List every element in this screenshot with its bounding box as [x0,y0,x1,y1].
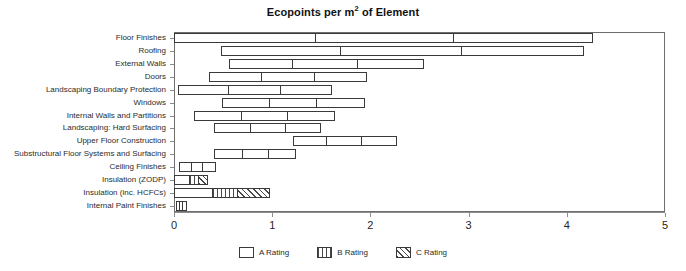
bar-segment [269,98,317,108]
y-axis-label: Roofing [138,46,166,55]
bar-segment [202,162,216,172]
y-axis-label: Upper Floor Construction [77,136,166,145]
bar-segment [357,59,425,69]
x-axis-tick [272,213,273,217]
legend-label: C Rating [416,248,447,257]
bar-segment [316,98,365,108]
y-axis-label: Internal Paint Finishes [87,201,166,210]
legend: A RatingB RatingC Rating [0,240,686,264]
x-axis-tick [370,213,371,217]
y-axis-label: Substructural Floor Systems and Surfacin… [14,149,166,158]
x-axis-tick-label: 4 [564,219,570,231]
bar-group [179,162,216,172]
bar-group [176,201,187,211]
legend-item[interactable]: C Rating [396,247,447,258]
y-axis-label: External Walls [115,59,166,68]
bar-segment [221,46,341,56]
x-axis-tick-label: 2 [367,219,373,231]
chart-container: Ecopoints per m2 of Element Floor Finish… [0,0,686,271]
y-axis-label: Insulation (ZODP) [102,175,166,184]
legend-item[interactable]: B Rating [317,247,368,258]
bar-segment [237,188,270,198]
bars-layer [174,32,665,212]
legend-swatch [396,247,411,258]
legend-swatch [239,247,254,258]
bar-segment [214,123,250,133]
bar-segment [461,46,585,56]
bar-segment [293,136,327,146]
bar-segment [174,33,316,43]
bar-segment [285,123,321,133]
bar-segment [361,136,397,146]
chart-title-before: Ecopoints per m [267,6,355,18]
x-axis-tick-label: 3 [466,219,472,231]
bar-segment [174,188,213,198]
x-axis-tick [174,213,175,217]
bar-segment [250,123,286,133]
y-axis-label: Doors [145,72,166,81]
bar-group [174,188,270,198]
bar-segment [228,85,281,95]
legend-swatch [317,247,332,258]
y-axis-label: Windows [134,98,166,107]
x-axis-tick [665,213,666,217]
bar-segment [229,59,293,69]
bar-segment [209,72,262,82]
x-axis: 012345 [174,212,665,213]
legend-label: A Rating [259,248,289,257]
bar-segment [222,98,270,108]
bar-segment [214,149,242,159]
bar-segment [241,111,288,121]
bar-segment [212,188,238,198]
x-axis-tick-label: 1 [269,219,275,231]
bar-group [214,123,321,133]
bar-segment [261,72,315,82]
x-axis-tick-label: 0 [171,219,177,231]
y-axis-label: Floor Finishes [116,33,166,42]
bar-segment [315,33,453,43]
bar-segment [287,111,335,121]
y-axis-label: Ceiling Finishes [110,162,166,171]
x-axis-tick-label: 5 [662,219,668,231]
bar-group [221,46,584,56]
y-axis-label: Internal Walls and Partitions [67,111,166,120]
bar-segment [194,111,242,121]
bar-segment [314,72,367,82]
bar-segment [292,59,358,69]
x-axis-tick [567,213,568,217]
legend-item[interactable]: A Rating [239,247,289,258]
bar-segment [453,33,593,43]
y-axis-label: Insulation (inc. HCFCs) [83,188,166,197]
y-axis-label: Landscaping: Hard Surfacing [63,123,166,132]
bar-segment [178,85,229,95]
bar-group [194,111,335,121]
bar-segment [198,175,209,185]
bar-segment [280,85,332,95]
y-axis-category-labels: Floor FinishesRoofingExternal WallsDoors… [0,32,170,212]
x-axis-tick [469,213,470,217]
bar-segment [182,201,187,211]
bar-segment [268,149,296,159]
chart-title: Ecopoints per m2 of Element [0,6,686,18]
bar-group [214,149,296,159]
chart-title-after: of Element [359,6,419,18]
bar-group [293,136,397,146]
bar-group [209,72,367,82]
y-axis-label: Landscaping Boundary Protection [46,85,166,94]
bar-segment [242,149,270,159]
bar-group [174,33,593,43]
bar-group [174,175,208,185]
bar-segment [326,136,361,146]
bar-group [229,59,424,69]
legend-label: B Rating [337,248,368,257]
bar-group [222,98,365,108]
bar-segment [340,46,462,56]
bar-segment [174,175,190,185]
bar-group [178,85,332,95]
